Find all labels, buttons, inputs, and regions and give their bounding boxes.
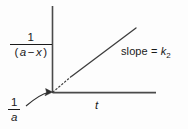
paren-open: ( <box>13 46 20 58</box>
curved-arrow-icon <box>26 92 49 106</box>
intercept-numerator: 1 <box>8 96 20 110</box>
fraction-inverse-a-minus-x: 1 (a−x) <box>10 31 52 58</box>
intercept-denominator: a <box>8 110 20 123</box>
equals-sign: = <box>151 45 158 57</box>
variable-x: x <box>36 46 42 58</box>
slope-annotation-label: slope = k2 <box>121 46 171 60</box>
rate-constant-subscript: 2 <box>166 51 171 60</box>
minus-sign: − <box>26 46 36 58</box>
intercept-label: 1 a <box>8 96 20 123</box>
y-axis-label: 1 (a−x) <box>10 31 52 58</box>
y-axis-denominator: (a−x) <box>10 45 52 58</box>
y-axis-numerator: 1 <box>10 31 52 45</box>
second-order-kinetics-plot: 1 (a−x) 1 a t slope = k2 <box>0 0 188 129</box>
fraction-inverse-a: 1 a <box>8 96 20 123</box>
paren-close: ) <box>42 46 49 58</box>
x-axis-label: t <box>95 100 98 112</box>
extrapolated-dotted-segment <box>53 75 73 92</box>
slope-text: slope <box>121 45 148 57</box>
arrowhead-icon <box>45 89 53 96</box>
plot-canvas <box>0 0 188 129</box>
